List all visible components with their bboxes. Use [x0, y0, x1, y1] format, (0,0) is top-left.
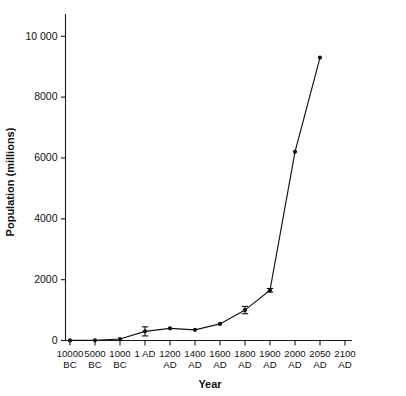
data-point-marker	[193, 328, 197, 332]
x-tick-label-era: AD	[313, 359, 326, 370]
plot-canvas: 10 0008000600040002000010000BC5000BC1000…	[0, 0, 406, 396]
x-tick-label: 1 AD	[135, 348, 156, 359]
data-point-marker	[293, 150, 297, 154]
x-tick-label-era: AD	[263, 359, 276, 370]
data-point-marker	[318, 55, 322, 59]
x-tick-label: 2000	[284, 348, 305, 359]
data-point-marker	[243, 308, 247, 312]
x-tick-label: 1000	[109, 348, 130, 359]
x-tick-label-era: AD	[213, 359, 226, 370]
x-tick-label-era: BC	[63, 359, 76, 370]
x-tick-label-era: BC	[88, 359, 101, 370]
y-tick-label: 2000	[34, 273, 58, 285]
data-point-marker	[218, 322, 222, 326]
x-tick-label-era: AD	[238, 359, 251, 370]
y-tick-label: 10 000	[25, 30, 57, 42]
data-point-marker	[93, 338, 97, 342]
y-axis-title: Population (millions)	[4, 127, 16, 236]
series-line-population	[70, 58, 320, 341]
y-tick-label: 4000	[34, 212, 58, 224]
x-tick-label-era: AD	[288, 359, 301, 370]
x-tick-label: 2100	[334, 348, 355, 359]
x-tick-label: 1200	[159, 348, 180, 359]
x-tick-label-era: AD	[338, 359, 351, 370]
x-tick-label-era: BC	[113, 359, 126, 370]
x-tick-label: 1600	[209, 348, 230, 359]
data-point-marker	[168, 326, 172, 330]
data-point-marker	[143, 329, 147, 333]
x-tick-label: 1800	[234, 348, 255, 359]
y-tick-label: 0	[52, 334, 58, 346]
x-tick-label: 1900	[259, 348, 280, 359]
x-tick-label-era: AD	[163, 359, 176, 370]
x-tick-label: 1400	[184, 348, 205, 359]
data-point-marker	[118, 337, 122, 341]
x-tick-label: 2050	[309, 348, 330, 359]
population-line-chart: 10 0008000600040002000010000BC5000BC1000…	[0, 0, 406, 396]
x-tick-label: 5000	[84, 348, 105, 359]
y-tick-label: 8000	[34, 90, 58, 102]
x-tick-label-era: AD	[188, 359, 201, 370]
data-point-marker	[268, 288, 272, 292]
y-tick-label: 6000	[34, 151, 58, 163]
x-axis-title: Year	[198, 378, 222, 390]
data-point-marker	[68, 338, 72, 342]
x-tick-label: 10000	[57, 348, 84, 359]
